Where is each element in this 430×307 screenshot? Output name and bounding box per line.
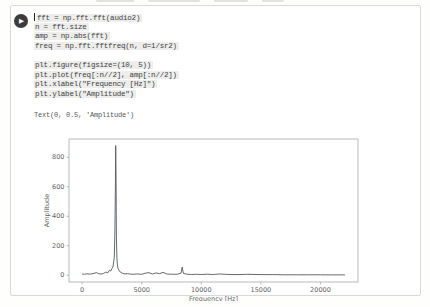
notebook-page: ▶ fft = np.fft.fft(audio2)n = fft.sizeam… (0, 0, 430, 307)
code-line: amp = np.abs(fft) (34, 32, 414, 42)
code-line: plt.xlabel("Frequency [Hz]") (34, 80, 414, 90)
y-tick-label: 600 (52, 183, 64, 191)
code-line: plt.figure(figsize=(10, 5)) (34, 61, 414, 71)
x-tick-label: 0 (80, 286, 84, 294)
output-figure: 050001000015000200000200400600800Frequen… (37, 127, 371, 305)
y-tick-label: 400 (52, 212, 64, 220)
code-cell: ▶ fft = np.fft.fft(audio2)n = fft.sizeam… (10, 5, 421, 296)
text-cursor (34, 13, 35, 21)
x-tick-label: 20000 (310, 286, 331, 294)
plot-frame (69, 139, 358, 282)
spectrum-plot: 050001000015000200000200400600800Frequen… (37, 127, 371, 301)
y-axis-label: Amplitude (43, 194, 51, 227)
code-line: n = fft.size (34, 23, 414, 33)
code-editor[interactable]: fft = np.fft.fft(audio2)n = fft.sizeamp … (34, 13, 414, 99)
y-tick-label: 200 (52, 242, 64, 250)
play-icon: ▶ (19, 18, 24, 25)
x-axis-label: Frequency [Hz] (189, 295, 238, 302)
code-line: freq = np.fft.fftfreq(n, d=1/sr2) (34, 42, 414, 52)
x-tick-label: 15000 (251, 286, 272, 294)
code-line (34, 51, 414, 61)
code-line: fft = np.fft.fft(audio2) (34, 13, 414, 23)
cropped-content-artifact (0, 0, 430, 3)
run-cell-button[interactable]: ▶ (14, 14, 28, 28)
code-line: plt.ylabel("Amplitude") (34, 90, 414, 100)
y-tick-label: 0 (60, 271, 64, 279)
code-line: plt.plot(freq[:n//2], amp[:n//2]) (34, 71, 414, 81)
x-tick-label: 10000 (191, 286, 212, 294)
cell-output-text: Text(0, 0.5, 'Amplitude') (34, 111, 134, 119)
x-tick-label: 5000 (133, 286, 150, 294)
spectrum-line (82, 146, 345, 275)
y-tick-label: 800 (52, 153, 64, 161)
